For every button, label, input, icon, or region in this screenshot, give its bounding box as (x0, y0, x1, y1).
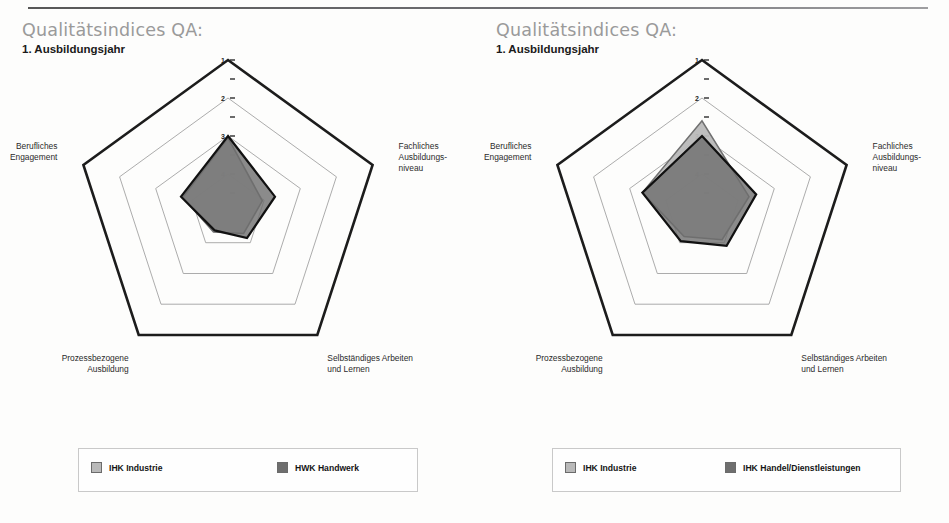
legend-swatch-icon (91, 462, 102, 473)
legend-label: IHK Handel/Dienstleistungen (743, 463, 860, 473)
radar-axis-label: Selbständiges Arbeitenund Lernen (801, 353, 887, 374)
legend-swatch-icon (725, 462, 736, 473)
radar-axis-label: ProzessbezogeneAusbildung (536, 353, 603, 374)
legend-item[interactable]: IHK Handel/Dienstleistungen (725, 462, 860, 473)
legend-item[interactable]: HWK Handwerk (277, 462, 359, 473)
legend-swatch-icon (565, 462, 576, 473)
radar-axis-label: FachlichesAusbildungs-niveau (873, 141, 922, 173)
legend-item[interactable]: IHK Industrie (565, 462, 636, 473)
radar-tick-label: 2 (221, 95, 225, 102)
legend-label: HWK Handwerk (295, 463, 359, 473)
radar-series-polygon (181, 136, 275, 238)
radar-axis-label: Selbständiges Arbeitenund Lernen (327, 353, 413, 374)
radar-svg-left: 1234ErfahrungsbasiertesLernenFachlichesA… (0, 30, 474, 420)
chart-panel-left: Qualitätsindices QA: 1. Ausbildungsjahr … (0, 0, 474, 523)
radar-tick-label: 1 (695, 57, 699, 64)
radar-tick-label: 1 (221, 57, 225, 64)
legend-label: IHK Industrie (109, 463, 162, 473)
radar-axis-label: FachlichesAusbildungs-niveau (399, 141, 448, 173)
chart-panel-right: Qualitätsindices QA: 1. Ausbildungsjahr … (474, 0, 948, 523)
radar-svg-right: 1234ErfahrungsbasiertesLernenFachlichesA… (474, 30, 948, 420)
radar-tick-label: 2 (695, 95, 699, 102)
radar-chart-left: 1234ErfahrungsbasiertesLernenFachlichesA… (0, 30, 474, 420)
legend-label: IHK Industrie (583, 463, 636, 473)
radar-chart-right: 1234ErfahrungsbasiertesLernenFachlichesA… (474, 30, 948, 420)
chart-legend-right: IHK Industrie IHK Handel/Dienstleistunge… (552, 448, 901, 492)
legend-item[interactable]: IHK Industrie (91, 462, 162, 473)
radar-axis-label: BeruflichesEngagement (10, 141, 58, 162)
legend-swatch-icon (277, 462, 288, 473)
chart-legend-left: IHK Industrie HWK Handwerk (78, 448, 418, 492)
radar-axis-label: BeruflichesEngagement (484, 141, 532, 162)
radar-axis-label: ProzessbezogeneAusbildung (62, 353, 129, 374)
radar-tick-label: 3 (221, 133, 225, 140)
radar-series-polygon (642, 136, 756, 246)
